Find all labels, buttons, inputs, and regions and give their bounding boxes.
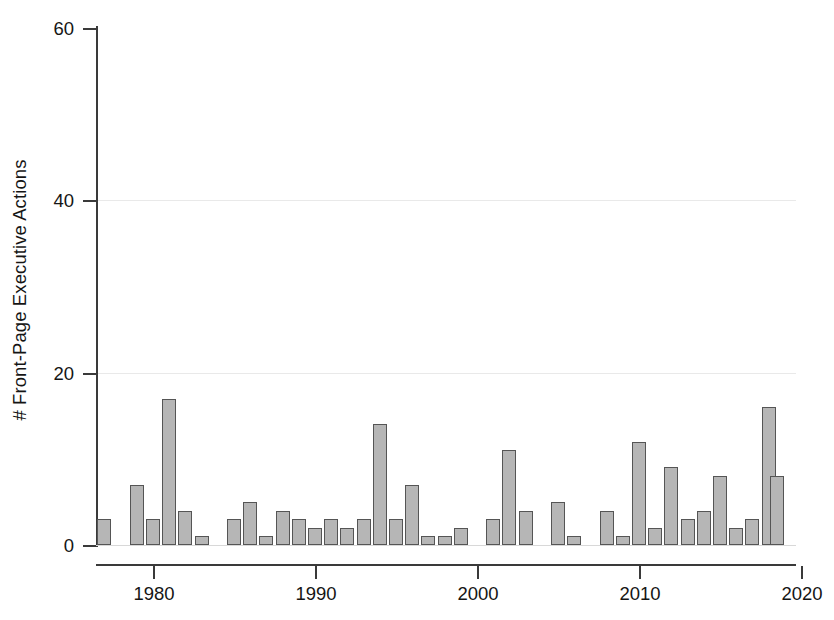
bar-1998 [438, 536, 452, 545]
y-tick-40 [83, 200, 96, 202]
bar-2006 [567, 536, 581, 545]
bar-1992 [340, 528, 354, 545]
x-tick-label-2000: 2000 [457, 583, 498, 605]
y-tick-label-60: 60 [53, 18, 74, 40]
bar-2010 [632, 442, 646, 545]
bar-2017 [745, 519, 759, 545]
chart-figure: # Front-Page Executive Actions 0204060 1… [0, 0, 834, 620]
bar-1995 [389, 519, 403, 545]
y-tick-label-wrap-60: 60 [0, 29, 80, 30]
bar-1987 [259, 536, 273, 545]
y-tick-0 [83, 545, 96, 547]
bar-2003 [519, 511, 533, 545]
x-tick-label-1980: 1980 [133, 583, 174, 605]
y-tick-label-wrap-20: 20 [0, 374, 80, 375]
baseline-shadow [96, 545, 796, 546]
y-axis-title: # Front-Page Executive Actions [0, 0, 40, 580]
x-tick-1980 [153, 566, 155, 579]
x-tick-2010 [639, 566, 641, 579]
bar-1981 [162, 399, 176, 545]
bar-1999 [454, 528, 468, 545]
bar-2013 [681, 519, 695, 545]
y-tick-label-wrap-0: 0 [0, 546, 80, 547]
y-tick-20 [83, 373, 96, 375]
bar-2012 [664, 467, 678, 545]
bar-1982 [178, 511, 192, 545]
bar-1991 [324, 519, 338, 545]
y-tick-label-40: 40 [53, 190, 74, 212]
bar-2001 [486, 519, 500, 545]
bar-1993 [357, 519, 371, 545]
x-tick-label-2010: 2010 [619, 583, 660, 605]
bar-2016 [729, 528, 743, 545]
bar-1997 [421, 536, 435, 545]
bar-2018-5 [770, 476, 784, 545]
x-tick-1990 [315, 566, 317, 579]
bar-1988 [276, 511, 290, 545]
y-tick-60 [83, 28, 96, 30]
bar-1989 [292, 519, 306, 545]
bar-2002 [502, 450, 516, 545]
bar-1977 [97, 519, 111, 545]
bar-2009 [616, 536, 630, 545]
bar-1980 [146, 519, 160, 545]
bar-series [96, 22, 796, 545]
bar-1996 [405, 485, 419, 545]
bar-2005 [551, 502, 565, 545]
x-axis-line [96, 564, 796, 566]
bar-1985 [227, 519, 241, 545]
y-tick-label-20: 20 [53, 363, 74, 385]
bar-2014 [697, 511, 711, 545]
x-tick-2020 [801, 566, 803, 579]
bar-1994 [373, 424, 387, 545]
bar-2015 [713, 476, 727, 545]
bar-2008 [600, 511, 614, 545]
bar-1990 [308, 528, 322, 545]
bar-2011 [648, 528, 662, 545]
x-tick-2000 [477, 566, 479, 579]
y-tick-label-wrap-40: 40 [0, 201, 80, 202]
x-tick-label-1990: 1990 [295, 583, 336, 605]
x-tick-label-2020: 2020 [781, 583, 822, 605]
y-tick-label-0: 0 [64, 535, 74, 557]
bar-1979 [130, 485, 144, 545]
bar-1986 [243, 502, 257, 545]
bar-1983 [195, 536, 209, 545]
